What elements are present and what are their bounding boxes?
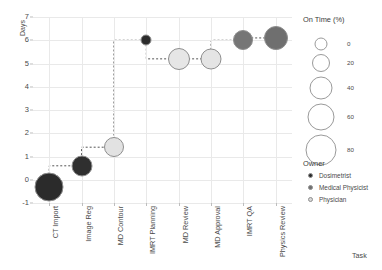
y-axis-tick-label: 0 xyxy=(25,176,29,184)
size-legend-label: 40 xyxy=(347,85,354,91)
gridline-horizontal xyxy=(33,203,292,204)
size-legend-label: 60 xyxy=(347,114,354,120)
y-axis-tick-label: 5 xyxy=(25,60,29,68)
y-axis-tick-label: 1 xyxy=(25,153,29,161)
x-axis-tick-mark xyxy=(211,203,212,206)
y-axis-tick-label: 3 xyxy=(25,106,29,114)
gridline-horizontal xyxy=(33,133,292,134)
y-axis-tick-mark xyxy=(30,179,33,180)
y-axis-tick-mark xyxy=(30,17,33,18)
x-axis-tick-label: IMRT Planning xyxy=(149,206,156,254)
size-legend-circle xyxy=(315,37,328,50)
size-legend-label: 0 xyxy=(347,41,350,47)
gridline-horizontal xyxy=(33,180,292,181)
owner-legend: Owner DosimetristMedical PhysicistPhysic… xyxy=(303,160,381,204)
owner-legend-label: Medical Physicist xyxy=(319,185,368,191)
owner-legend-item[interactable]: Medical Physicist xyxy=(303,183,381,192)
gridline-horizontal xyxy=(33,110,292,111)
x-axis-tick-label: MD Approval xyxy=(214,206,221,248)
x-axis-title: Task xyxy=(352,252,367,259)
y-axis-tick-mark xyxy=(30,156,33,157)
y-axis-tick-mark xyxy=(30,133,33,134)
size-legend-circle xyxy=(308,103,335,130)
bubble-chart-figure: Days Task 76543210-1CT ImportImage RegMD… xyxy=(0,0,382,270)
size-legend-title: On Time (%) xyxy=(303,16,379,23)
data-bubble[interactable] xyxy=(233,30,253,50)
size-legend-label: 20 xyxy=(347,60,354,66)
x-axis-tick-label: Image Reg xyxy=(85,206,92,242)
gridline-vertical xyxy=(114,17,115,203)
owner-legend-label: Dosimetrist xyxy=(319,173,351,179)
data-bubble[interactable] xyxy=(168,48,190,70)
data-bubble[interactable] xyxy=(141,35,152,46)
x-axis-tick-label: CT Import xyxy=(52,206,59,238)
gridline-horizontal xyxy=(33,17,292,18)
x-axis-tick-label: MD Review xyxy=(182,206,189,243)
owner-legend-items: DosimetristMedical PhysicistPhysician xyxy=(303,171,381,204)
x-axis-tick-mark xyxy=(114,203,115,206)
y-axis-tick-label: -1 xyxy=(22,199,29,207)
owner-legend-item[interactable]: Physician xyxy=(303,195,381,204)
x-axis-tick-mark xyxy=(82,203,83,206)
size-legend: On Time (%) 020406080 xyxy=(303,16,379,147)
y-axis-tick-mark xyxy=(30,110,33,111)
size-legend-items: 020406080 xyxy=(303,27,379,147)
y-axis-tick-label: 7 xyxy=(25,13,29,21)
owner-legend-item[interactable]: Dosimetrist xyxy=(303,171,381,180)
x-axis-tick-mark xyxy=(179,203,180,206)
data-bubble[interactable] xyxy=(35,172,64,201)
owner-legend-swatch xyxy=(308,197,313,202)
data-bubble[interactable] xyxy=(201,48,222,69)
gridline-vertical xyxy=(179,17,180,203)
data-bubble[interactable] xyxy=(264,26,288,50)
data-bubble[interactable] xyxy=(71,155,92,176)
x-axis-tick-label: IMRT QA xyxy=(246,206,253,236)
y-axis-tick-mark xyxy=(30,86,33,87)
y-axis-tick-mark xyxy=(30,63,33,64)
data-bubble[interactable] xyxy=(104,137,124,157)
y-axis-tick-label: 2 xyxy=(25,130,29,138)
gridline-vertical xyxy=(211,17,212,203)
size-legend-circle xyxy=(312,54,330,72)
owner-legend-swatch xyxy=(308,185,313,190)
gridline-horizontal xyxy=(33,64,292,65)
size-legend-label: 80 xyxy=(347,147,354,153)
gridline-horizontal xyxy=(33,157,292,158)
y-axis-tick-label: 6 xyxy=(25,37,29,45)
y-axis-tick-label: 4 xyxy=(25,83,29,91)
x-axis-tick-mark xyxy=(276,203,277,206)
plot-area: 76543210-1CT ImportImage RegMD ContourIM… xyxy=(33,17,292,203)
owner-legend-title: Owner xyxy=(303,160,381,167)
owner-legend-label: Physician xyxy=(319,197,346,203)
y-axis-tick-mark xyxy=(30,203,33,204)
gridline-horizontal xyxy=(33,87,292,88)
x-axis-tick-label: MD Contour xyxy=(117,206,124,245)
y-axis-title: Days xyxy=(19,20,26,36)
size-legend-circle xyxy=(310,76,333,99)
owner-legend-swatch xyxy=(308,173,313,178)
x-axis-tick-label: Physics Review xyxy=(279,206,286,257)
y-axis-tick-mark xyxy=(30,40,33,41)
